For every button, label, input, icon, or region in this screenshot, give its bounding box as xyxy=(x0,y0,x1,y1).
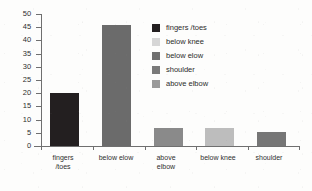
y-tick-label: 15 xyxy=(23,103,31,111)
legend-label: above elbow xyxy=(166,79,208,89)
y-tick-label: 40 xyxy=(23,37,31,45)
legend-label: below elow xyxy=(166,51,203,61)
x-tick-label: shoulder xyxy=(243,153,295,162)
x-tick-label: below elow xyxy=(87,153,145,162)
x-axis-line xyxy=(34,146,300,147)
legend-label: fingers /toes xyxy=(166,23,207,33)
x-tick-label: fingers /toes xyxy=(37,153,89,171)
y-tick-label: 0 xyxy=(27,142,31,150)
bar-chart: 0 5 10 15 20 25 30 35 xyxy=(0,0,312,191)
x-tick-label: above elbow xyxy=(140,153,192,171)
y-tick-label: 20 xyxy=(23,89,31,97)
bar-fingers-toes xyxy=(50,93,79,146)
y-tick-label: 50 xyxy=(23,10,31,18)
y-tick-label: 35 xyxy=(23,50,31,58)
legend-swatch xyxy=(152,52,160,60)
y-tick-label: 30 xyxy=(23,63,31,71)
bar-shoulder xyxy=(257,132,286,147)
bar-below-knee xyxy=(205,128,234,147)
bar-below-elow xyxy=(102,25,131,146)
y-tick-label: 5 xyxy=(27,129,31,137)
y-tick-label: 10 xyxy=(23,116,31,124)
bar-above-elbow xyxy=(154,128,183,147)
legend-label: below knee xyxy=(166,37,204,47)
legend-swatch xyxy=(152,80,160,88)
y-tick-label: 25 xyxy=(23,76,31,84)
legend-swatch xyxy=(152,38,160,46)
legend-swatch xyxy=(152,24,160,32)
legend-swatch xyxy=(152,66,160,74)
legend-label: shoulder xyxy=(166,65,195,75)
x-tick-label: below knee xyxy=(189,153,247,162)
y-tick-label: 45 xyxy=(23,23,31,31)
